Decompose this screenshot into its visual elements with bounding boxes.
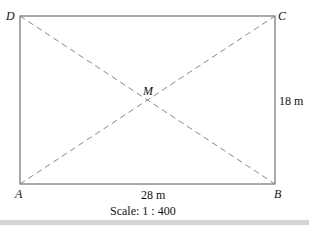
scale-label: Scale: 1 : 400	[110, 205, 176, 217]
vertex-d-label: D	[6, 10, 15, 22]
width-dimension-label: 28 m	[141, 189, 165, 201]
vertex-a-label: A	[15, 188, 22, 200]
footer-bar	[0, 220, 309, 225]
midpoint-m-label: M	[143, 85, 153, 97]
height-dimension-label: 18 m	[279, 95, 303, 107]
vertex-b-label: B	[274, 188, 281, 200]
vertex-c-label: C	[278, 10, 286, 22]
